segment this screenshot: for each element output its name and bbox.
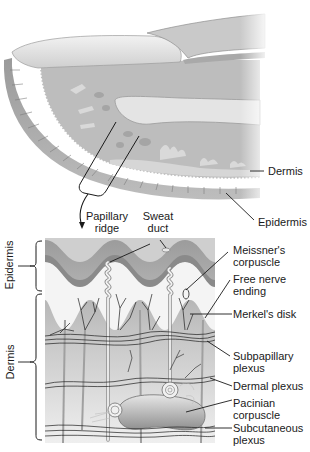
- label-epidermis-top: Epidermis: [258, 216, 307, 228]
- label-meissner: Meissner's corpuscle: [233, 244, 285, 268]
- label-papillary-ridge: Papillary ridge: [85, 210, 129, 234]
- label-papillary-line2: ridge: [95, 222, 119, 234]
- skin-receptor-diagram: Dermis Epidermis Papillary ridge Sweat d…: [0, 0, 310, 452]
- label-sweat-duct: Sweat duct: [140, 210, 176, 234]
- epidermis-brace: [30, 241, 42, 291]
- label-dermis-top: Dermis: [268, 165, 303, 177]
- label-free-nerve-line1: Free nerve: [233, 273, 286, 285]
- label-merkel-disk: Merkel's disk: [233, 308, 296, 320]
- label-merkel-line1: Merkel's disk: [233, 308, 296, 320]
- label-dermal-plexus: Dermal plexus: [233, 380, 303, 392]
- label-subpapillary-line1: Subpapillary: [233, 350, 294, 362]
- label-epidermis-side: Epidermis: [3, 240, 15, 290]
- nail-plate: [12, 36, 181, 68]
- label-subcutaneous-line1: Subcutaneous: [233, 422, 303, 434]
- label-pacinian-line2: corpuscle: [233, 409, 280, 421]
- label-meissner-line1: Meissner's: [233, 244, 285, 256]
- dermis-brace: [30, 294, 42, 440]
- label-subcutaneous-plexus: Subcutaneous plexus: [233, 422, 303, 446]
- label-pacinian-corpuscle: Pacinian corpuscle: [233, 397, 280, 421]
- label-subpapillary-line2: plexus: [233, 362, 265, 374]
- label-dermal-line1: Dermal plexus: [233, 380, 303, 392]
- label-subpapillary-plexus: Subpapillary plexus: [233, 350, 294, 374]
- label-sweat-line2: duct: [148, 222, 169, 234]
- label-meissner-line2: corpuscle: [233, 256, 280, 268]
- label-free-nerve-ending: Free nerve ending: [233, 273, 286, 297]
- fingertip-illustration: [0, 0, 310, 230]
- label-papillary-line1: Papillary: [86, 210, 128, 222]
- label-sweat-line1: Sweat: [143, 210, 174, 222]
- label-free-nerve-line2: ending: [233, 285, 266, 297]
- label-subcutaneous-line2: plexus: [233, 434, 265, 446]
- label-pacinian-line1: Pacinian: [233, 397, 275, 409]
- label-dermis-side: Dermis: [4, 342, 16, 382]
